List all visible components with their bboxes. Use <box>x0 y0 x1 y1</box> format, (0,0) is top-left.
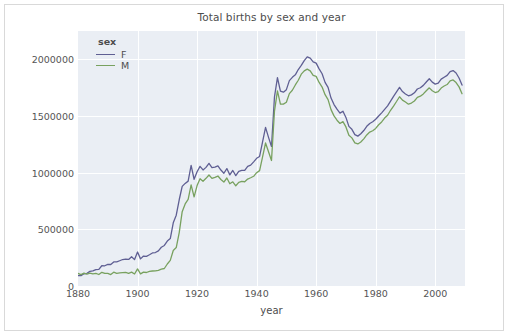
x-axis-label: year <box>78 305 465 316</box>
series-line-M <box>78 69 462 274</box>
x-tick-label: 1900 <box>113 288 163 299</box>
plot-area <box>78 31 465 286</box>
legend: sex FM <box>92 34 133 74</box>
x-tick-label: 1920 <box>172 288 222 299</box>
series-line-F <box>78 57 462 276</box>
y-axis-ticks: 0500000100000015000002000000 <box>2 31 74 286</box>
series-layer <box>78 31 465 286</box>
legend-item-F[interactable]: F <box>96 49 129 60</box>
y-tick-label: 500000 <box>6 224 74 235</box>
y-tick-label: 1500000 <box>6 111 74 122</box>
legend-line-swatch <box>96 65 115 66</box>
chart-title: Total births by sex and year <box>78 11 465 23</box>
x-tick-label: 1880 <box>53 288 103 299</box>
x-tick-label: 1980 <box>351 288 401 299</box>
x-tick-label: 2000 <box>410 288 460 299</box>
legend-title: sex <box>98 36 129 47</box>
screenshot-root: Total births by sex and year 05000001000… <box>0 0 508 335</box>
legend-entries: FM <box>96 49 129 71</box>
x-tick-label: 1940 <box>232 288 282 299</box>
legend-line-swatch <box>96 54 115 55</box>
x-tick-label: 1960 <box>291 288 341 299</box>
legend-item-label: F <box>121 49 126 60</box>
legend-item-label: M <box>121 60 129 71</box>
y-tick-label: 2000000 <box>6 54 74 65</box>
x-axis-ticks: 1880190019201940196019802000 <box>78 288 465 304</box>
y-tick-label: 1000000 <box>6 167 74 178</box>
legend-item-M[interactable]: M <box>96 60 129 71</box>
matplotlib-figure: Total births by sex and year 05000001000… <box>0 0 508 335</box>
